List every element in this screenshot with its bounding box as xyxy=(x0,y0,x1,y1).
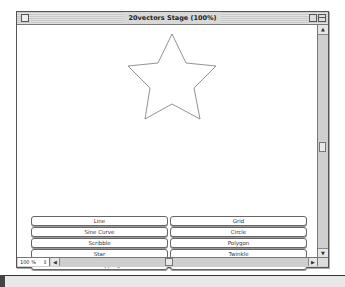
sine-curve-button[interactable]: Sine Curve xyxy=(31,227,168,237)
circle-button[interactable]: Circle xyxy=(170,227,307,237)
horizontal-scroll-thumb[interactable] xyxy=(165,258,173,266)
scroll-left-arrow-icon[interactable]: ◀ xyxy=(51,258,60,266)
window-title: 20vectors Stage (100%) xyxy=(124,12,222,24)
grid-button[interactable]: Grid xyxy=(170,216,307,226)
zoom-box-icon[interactable] xyxy=(309,14,317,22)
scroll-up-arrow-icon[interactable]: ▲ xyxy=(318,25,328,35)
collapse-box-icon[interactable] xyxy=(318,14,326,22)
line-button[interactable]: Line xyxy=(31,216,168,226)
resize-grow-box-icon[interactable] xyxy=(317,258,328,266)
close-box-icon[interactable] xyxy=(21,14,29,22)
polygon-button[interactable]: Polygon xyxy=(170,238,307,248)
stage-window: 20vectors Stage (100%) Line Grid Sine Cu… xyxy=(16,11,329,268)
corner-icon xyxy=(0,275,5,287)
stage-canvas[interactable]: Line Grid Sine Curve Circle Scribble Pol… xyxy=(17,25,316,258)
vertical-scroll-thumb[interactable] xyxy=(319,142,326,152)
title-bar[interactable]: 20vectors Stage (100%) xyxy=(17,12,328,25)
bottom-panel-edge xyxy=(0,275,345,287)
vertical-scrollbar[interactable]: ▲ ▼ xyxy=(317,25,328,258)
scroll-right-arrow-icon[interactable]: ▶ xyxy=(308,258,317,266)
star-shape xyxy=(17,25,316,205)
horizontal-scrollbar[interactable]: 100 % ⇕ ◀ ▶ xyxy=(17,257,328,267)
scribble-button[interactable]: Scribble xyxy=(31,238,168,248)
zoom-stepper-icon[interactable]: ⇕ xyxy=(43,258,47,266)
